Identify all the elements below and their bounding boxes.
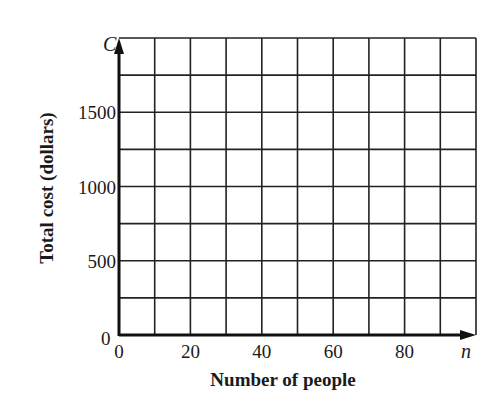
axes (114, 38, 476, 340)
y-tick-labels: 50010001500 (78, 102, 116, 272)
y-origin-label: 0 (101, 328, 111, 349)
x-variable-label: n (461, 340, 471, 362)
y-axis-title: Total cost (dollars) (36, 112, 58, 263)
y-tick-label: 500 (88, 251, 117, 272)
grid-lines (119, 38, 476, 335)
chart: 020406080 50010001500 0 C n Number of pe… (0, 0, 498, 410)
x-tick-label: 40 (252, 341, 271, 362)
x-tick-label: 0 (114, 341, 124, 362)
x-tick-label: 20 (181, 341, 200, 362)
y-variable-label: C (103, 33, 117, 55)
x-axis-title: Number of people (210, 369, 355, 390)
x-tick-label: 80 (395, 341, 414, 362)
x-tick-labels: 020406080 (114, 341, 414, 362)
y-tick-label: 1000 (78, 177, 116, 198)
y-tick-label: 1500 (78, 102, 116, 123)
x-tick-label: 60 (324, 341, 343, 362)
x-axis-arrow-icon (460, 330, 476, 340)
